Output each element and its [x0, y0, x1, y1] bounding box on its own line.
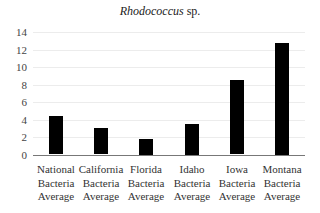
x-category-label-line: Bacteria [259, 177, 305, 191]
bar [275, 43, 289, 155]
y-tick-label: 4 [5, 114, 27, 126]
x-category-label: CaliforniaBacteriaAverage [78, 163, 124, 204]
bar [94, 128, 108, 154]
gridline [33, 85, 305, 86]
x-category-label-line: Average [123, 190, 169, 204]
x-category-label-line: Average [78, 190, 124, 204]
x-category-label-line: Bacteria [78, 177, 124, 191]
x-category-label-line: Bacteria [169, 177, 215, 191]
x-category-label-line: National [33, 163, 79, 177]
y-tick-label: 0 [5, 149, 27, 161]
x-category-label-line: Iowa [214, 163, 260, 177]
x-category-label-line: Bacteria [33, 177, 79, 191]
y-tick-label: 6 [5, 96, 27, 108]
x-category-label: IdahoBacteriaAverage [169, 163, 215, 204]
x-axis-line [33, 155, 305, 156]
x-category-label-line: California [78, 163, 124, 177]
bar [230, 80, 244, 154]
x-category-label-line: Average [259, 190, 305, 204]
x-category-label: NationalBacteriaAverage [33, 163, 79, 204]
x-category-label-line: Average [214, 190, 260, 204]
bar-chart: Rhodococcus sp. 02468101214NationalBacte… [0, 0, 320, 213]
gridline [33, 137, 305, 138]
x-category-label-line: Montana [259, 163, 305, 177]
chart-title-suffix: sp. [184, 4, 201, 18]
y-tick-label: 2 [5, 131, 27, 143]
x-category-label: IowaBacteriaAverage [214, 163, 260, 204]
chart-title: Rhodococcus sp. [0, 4, 320, 19]
x-category-label-line: Average [33, 190, 79, 204]
gridline [33, 32, 305, 33]
x-category-label-line: Idaho [169, 163, 215, 177]
y-tick-label: 8 [5, 79, 27, 91]
x-category-label-line: Bacteria [214, 177, 260, 191]
bar [49, 116, 63, 154]
gridline [33, 67, 305, 68]
x-category-label: FloridaBacteriaAverage [123, 163, 169, 204]
y-tick-label: 14 [5, 26, 27, 38]
gridline [33, 50, 305, 51]
y-tick-label: 12 [5, 44, 27, 56]
x-category-label-line: Bacteria [123, 177, 169, 191]
x-category-label-line: Average [169, 190, 215, 204]
gridline [33, 102, 305, 103]
y-tick-label: 10 [5, 61, 27, 73]
bar [185, 124, 199, 155]
chart-title-genus: Rhodococcus [120, 4, 184, 18]
bar [139, 139, 153, 155]
x-category-label: MontanaBacteriaAverage [259, 163, 305, 204]
gridline [33, 120, 305, 121]
x-category-label-line: Florida [123, 163, 169, 177]
